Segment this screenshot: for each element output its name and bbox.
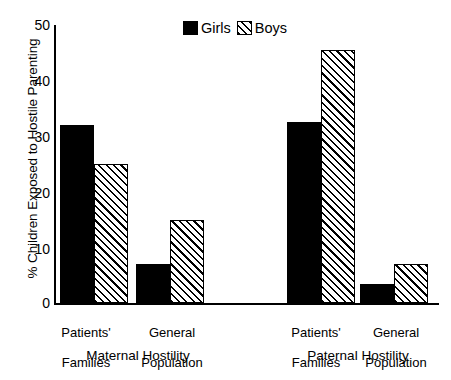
y-tick-40: 40 [4, 74, 50, 88]
bar-paternal-hostility-patients-families-boys [321, 50, 355, 303]
bar-paternal-hostility-patients-families-girls [287, 122, 321, 303]
bar-maternal-hostility-patients-families-girls [60, 125, 94, 303]
bar-maternal-hostility-general-population-girls [136, 264, 170, 303]
category-label-line1: General [373, 325, 419, 340]
y-tick-0: 0 [4, 296, 50, 310]
bar-maternal-hostility-general-population-boys [170, 220, 204, 303]
plot-area [56, 25, 439, 303]
x-axis-line [54, 303, 439, 305]
bar-chart: % Children Exposed to Hostile Parenting … [0, 0, 451, 380]
y-tick-20: 20 [4, 186, 50, 200]
bar-paternal-hostility-general-population-girls [360, 284, 394, 303]
category-label-line1: General [149, 325, 195, 340]
category-label-line1: Patients' [291, 325, 340, 340]
category-label-line1: Patients' [61, 325, 110, 340]
group-label-maternal-hostility: Maternal Hostility [48, 348, 228, 363]
y-tick-30: 30 [4, 130, 50, 144]
y-tick-10: 10 [4, 242, 50, 256]
bar-paternal-hostility-general-population-boys [394, 264, 428, 303]
bar-maternal-hostility-patients-families-boys [94, 164, 128, 303]
group-label-paternal-hostility: Paternal Hostility [268, 348, 448, 363]
y-tick-50: 50 [4, 18, 50, 32]
